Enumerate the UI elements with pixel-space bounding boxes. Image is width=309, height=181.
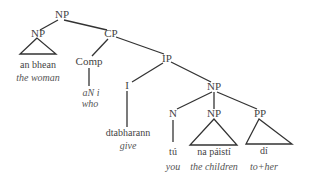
leaf-gloss-the-children: the children [190,162,238,172]
leaf-word-na-paisti: na páistí [197,147,231,157]
node-pp: PP [254,108,266,119]
node-ip: IP [162,53,172,64]
leaf-word-an-i: aN i [83,88,100,98]
leaf-word-an-bhean: an bhean [20,60,56,70]
syntax-tree-diagram: NP NP an bhean the woman CP Comp aN i wh… [0,0,309,181]
node-np-inner: NP [207,81,221,92]
leaf-gloss-give: give [120,141,137,151]
leaf-gloss-the-woman: the woman [16,73,60,83]
node-comp: Comp [76,56,103,67]
node-cp: CP [104,28,117,39]
leaf-gloss-you: you [166,162,180,172]
node-np-subject: NP [31,28,45,39]
node-i: I [125,80,129,91]
leaf-gloss-to-her: to+her [250,162,278,172]
node-root-np: NP [55,9,69,20]
leaf-gloss-who: who [82,99,99,109]
leaf-word-dtabharann: dtabharann [106,128,150,138]
leaf-word-di: dí [260,146,268,156]
leaf-word-tu: tú [169,147,177,157]
node-n: N [169,108,177,119]
node-np-object: NP [207,108,221,119]
